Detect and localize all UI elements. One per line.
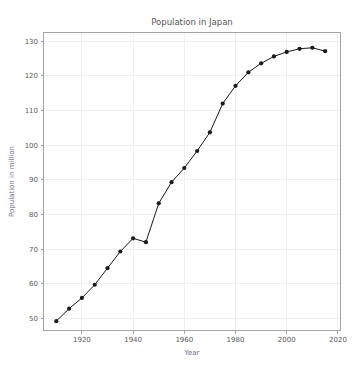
data-point bbox=[285, 50, 289, 54]
data-point bbox=[105, 266, 109, 270]
data-point bbox=[297, 47, 301, 51]
chart-figure: 192019401960198020002020 506070809010011… bbox=[0, 0, 364, 371]
y-tick-label: 60 bbox=[29, 280, 38, 288]
y-tick-label: 120 bbox=[25, 72, 38, 80]
data-point bbox=[54, 319, 58, 323]
y-tick-label: 70 bbox=[29, 246, 38, 254]
y-tick-label: 50 bbox=[29, 315, 38, 323]
data-point bbox=[323, 49, 327, 53]
y-tick-label: 130 bbox=[25, 38, 38, 46]
data-point bbox=[272, 54, 276, 58]
y-tick-label: 100 bbox=[25, 142, 38, 150]
x-axis-label: Year bbox=[184, 349, 200, 357]
y-axis-label: Population in million bbox=[8, 146, 16, 217]
data-point bbox=[144, 240, 148, 244]
y-tick-label: 80 bbox=[29, 211, 38, 219]
data-point bbox=[221, 101, 225, 105]
data-point bbox=[208, 130, 212, 134]
x-tick-label: 2020 bbox=[329, 336, 347, 344]
data-point bbox=[195, 149, 199, 153]
population-line-chart: 192019401960198020002020 506070809010011… bbox=[0, 0, 364, 371]
data-point bbox=[93, 283, 97, 287]
data-point bbox=[246, 70, 250, 74]
data-point bbox=[169, 180, 173, 184]
x-tick-label: 1980 bbox=[227, 336, 245, 344]
data-point bbox=[310, 46, 314, 50]
data-point bbox=[233, 84, 237, 88]
data-point bbox=[118, 249, 122, 253]
chart-title: Population in Japan bbox=[151, 17, 233, 27]
data-point bbox=[182, 166, 186, 170]
x-tick-label: 1920 bbox=[73, 336, 91, 344]
x-tick-label: 1960 bbox=[175, 336, 193, 344]
x-tick-label: 2000 bbox=[278, 336, 296, 344]
data-point bbox=[259, 61, 263, 65]
data-point bbox=[67, 307, 71, 311]
x-tick-label: 1940 bbox=[124, 336, 142, 344]
data-point bbox=[131, 236, 135, 240]
y-tick-label: 110 bbox=[25, 107, 38, 115]
plot-area-background bbox=[44, 33, 341, 331]
data-point bbox=[80, 296, 84, 300]
y-tick-label: 90 bbox=[29, 176, 38, 184]
data-point bbox=[157, 201, 161, 205]
